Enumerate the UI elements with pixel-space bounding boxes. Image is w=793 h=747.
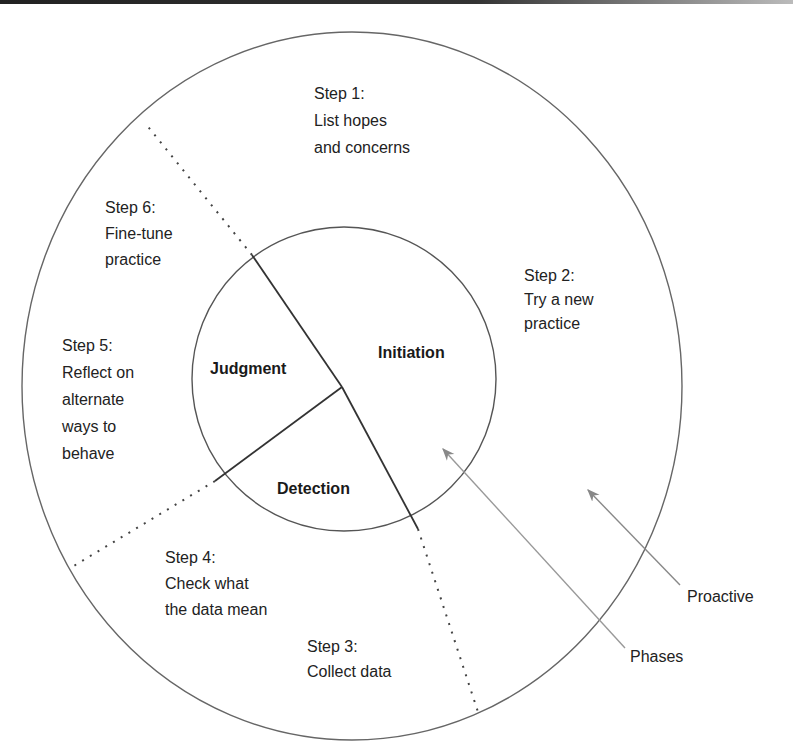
step-2-title: Step 2:: [524, 264, 594, 288]
divider-initiation-detection: [342, 387, 418, 529]
step-1-title: Step 1:: [314, 80, 410, 107]
step-4-line: Check what: [165, 571, 267, 597]
phases-arrow: [443, 449, 625, 648]
phase-detection: Detection: [277, 480, 350, 498]
step-5-line: Reflect on: [62, 359, 134, 386]
step-5-line: alternate: [62, 386, 134, 413]
step-6-title: Step 6:: [105, 195, 173, 221]
divider-judgment-detection: [215, 387, 342, 481]
step-3-line: Collect data: [307, 659, 392, 684]
phase-judgment: Judgment: [210, 360, 286, 378]
step-6-line: practice: [105, 247, 173, 273]
phase-initiation: Initiation: [378, 344, 445, 362]
step-3-title: Step 3:: [307, 634, 392, 659]
step-5-label: Step 5: Reflect on alternate ways to beh…: [62, 332, 134, 467]
step-4-label: Step 4: Check what the data mean: [165, 545, 267, 623]
step-4-title: Step 4:: [165, 545, 267, 571]
step-5-line: ways to: [62, 413, 134, 440]
dotted-divider-step2-step3: [418, 529, 478, 712]
step-6-label: Step 6: Fine-tune practice: [105, 195, 173, 273]
step-2-line: Try a new: [524, 288, 594, 312]
step-2-line: practice: [524, 312, 594, 336]
step-1-line: and concerns: [314, 134, 410, 161]
step-4-line: the data mean: [165, 597, 267, 623]
phases-callout: Phases: [630, 648, 683, 666]
step-1-line: List hopes: [314, 107, 410, 134]
step-2-label: Step 2: Try a new practice: [524, 264, 594, 336]
step-6-line: Fine-tune: [105, 221, 173, 247]
step-5-title: Step 5:: [62, 332, 134, 359]
step-3-label: Step 3: Collect data: [307, 634, 392, 684]
step-1-label: Step 1: List hopes and concerns: [314, 80, 410, 161]
proactive-callout: Proactive: [687, 588, 754, 606]
step-5-line: behave: [62, 440, 134, 467]
